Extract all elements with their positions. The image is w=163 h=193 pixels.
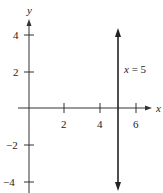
line-label: x = 5: [123, 63, 147, 75]
y-tick-label-2: 2: [13, 66, 19, 78]
x-axis-arrow-icon: [145, 106, 152, 111]
line-top-arrow-icon: [115, 28, 121, 37]
line-bottom-arrow-icon: [115, 182, 121, 191]
x-tick-label-4: 4: [97, 118, 103, 130]
y-tick-label-minus-2: −2: [6, 139, 18, 151]
x-tick-label-2: 2: [61, 118, 67, 130]
y-tick-label-4: 4: [13, 29, 19, 41]
chart: x y 2 4 6 4 2 −2 −4 x = 5: [0, 0, 163, 193]
y-tick-label-minus-4: −4: [3, 176, 15, 188]
y-axis-arrow-icon: [27, 19, 32, 26]
y-axis-label: y: [26, 4, 32, 16]
x-axis-label: x: [155, 102, 161, 114]
x-tick-label-6: 6: [133, 118, 139, 130]
